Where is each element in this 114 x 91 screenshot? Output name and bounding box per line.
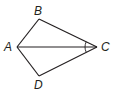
segment-cd [39,47,97,76]
angle-arc-acd [85,47,86,52]
segment-bc [39,19,97,47]
segment-da [17,47,39,76]
label-a: A [3,40,12,54]
label-c: C [101,40,110,54]
angle-arc-bca [85,42,86,47]
segment-ab [17,19,39,47]
label-d: D [34,78,43,91]
label-b: B [34,4,42,18]
kite-diagram: B A C D [0,0,114,91]
